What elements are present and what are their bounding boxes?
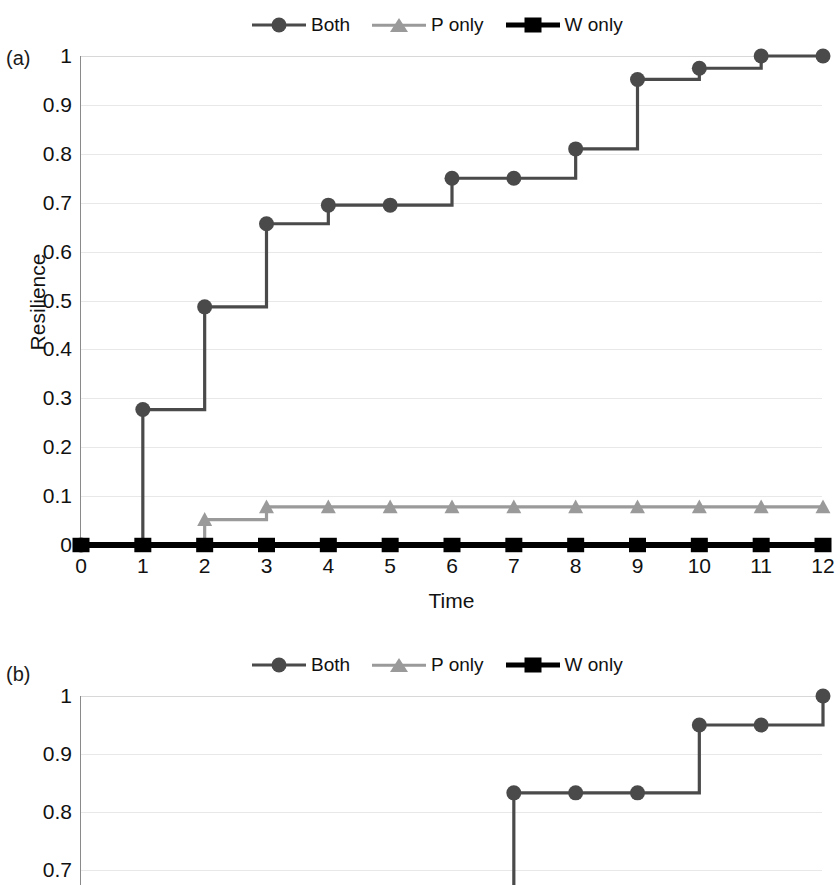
data-point-marker — [445, 171, 460, 186]
data-point-marker — [134, 538, 151, 552]
data-point-marker — [754, 718, 769, 733]
y-axis-tick-label: 0.8 — [43, 800, 72, 824]
triangle-marker-icon — [372, 656, 426, 674]
data-point-marker — [630, 72, 645, 87]
x-axis-tick-label: 7 — [508, 554, 520, 578]
x-axis-tick-label: 0 — [75, 554, 87, 578]
x-axis-tick-label: 5 — [384, 554, 396, 578]
y-axis-tick-label: 0 — [60, 533, 72, 557]
circle-marker-icon — [252, 16, 306, 34]
data-point-marker — [753, 538, 770, 552]
y-axis-tick-label: 0.9 — [43, 742, 72, 766]
legend-label-both: Both — [311, 654, 350, 676]
y-axis-tick-label: 0.9 — [43, 93, 72, 117]
x-axis-tick-label: 10 — [688, 554, 711, 578]
figure: (a) Both P only — [0, 0, 840, 885]
data-point-marker — [691, 538, 708, 552]
y-axis-tick-label: 0.7 — [43, 858, 72, 882]
panel-b-series-layer — [81, 696, 823, 885]
data-point-marker — [630, 785, 645, 800]
y-axis-tick-label: 1 — [60, 44, 72, 68]
legend-label-p-only: P only — [431, 14, 483, 36]
series-both — [74, 49, 831, 553]
data-point-marker — [505, 538, 522, 552]
square-marker-icon — [506, 656, 560, 674]
x-axis-tick-label: 3 — [261, 554, 273, 578]
triangle-marker-icon — [372, 16, 426, 34]
panel-b: (b) Both P only — [0, 640, 840, 885]
panel-a: (a) Both P only — [0, 0, 840, 640]
panel-a-series-layer — [81, 56, 823, 545]
panel-a-x-axis-title: Time — [429, 589, 475, 613]
legend-label-p-only: P only — [431, 654, 483, 676]
legend-item-w-only: W only — [506, 654, 623, 676]
data-point-marker — [815, 538, 832, 552]
data-point-marker — [567, 538, 584, 552]
legend-item-w-only: W only — [506, 14, 623, 36]
data-point-marker — [197, 299, 212, 314]
legend-item-p-only: P only — [372, 14, 483, 36]
series-both — [506, 689, 830, 885]
data-point-marker — [73, 538, 90, 552]
data-point-marker — [444, 538, 461, 552]
data-point-marker — [196, 538, 213, 552]
x-axis-tick-label: 9 — [632, 554, 644, 578]
panel-b-tag: (b) — [6, 663, 30, 686]
data-point-marker — [754, 49, 769, 64]
data-point-marker — [568, 785, 583, 800]
legend-label-both: Both — [311, 14, 350, 36]
y-axis-tick-label: 0.3 — [43, 386, 72, 410]
data-point-marker — [135, 402, 150, 417]
data-point-marker — [816, 689, 831, 704]
panel-a-tag: (a) — [6, 47, 30, 70]
x-axis-tick-label: 11 — [750, 554, 772, 578]
data-point-marker — [629, 538, 646, 552]
panel-a-legend: Both P only W only — [252, 14, 623, 36]
x-axis-tick-label: 8 — [570, 554, 582, 578]
x-axis-tick-label: 2 — [199, 554, 211, 578]
y-axis-tick-label: 0.7 — [43, 191, 72, 215]
legend-item-p-only: P only — [372, 654, 483, 676]
x-axis-tick-label: 1 — [137, 554, 149, 578]
data-point-marker — [320, 538, 337, 552]
data-point-marker — [506, 785, 521, 800]
x-axis-tick-label: 12 — [811, 554, 834, 578]
y-axis-tick-label: 1 — [60, 684, 72, 708]
x-axis-tick-label: 4 — [322, 554, 334, 578]
data-point-marker — [568, 141, 583, 156]
panel-a-y-axis-title: Resilience — [26, 242, 50, 362]
legend-item-both: Both — [252, 14, 350, 36]
data-point-marker — [321, 198, 336, 213]
x-axis-tick-label: 6 — [446, 554, 458, 578]
data-point-marker — [692, 718, 707, 733]
panel-a-plot-area: 00.10.20.30.40.50.60.70.80.91 0123456789… — [80, 56, 822, 545]
data-point-marker — [383, 198, 398, 213]
panel-b-legend: Both P only W only — [252, 654, 623, 676]
data-point-marker — [382, 538, 399, 552]
data-point-marker — [506, 171, 521, 186]
legend-item-both: Both — [252, 654, 350, 676]
panel-b-plot-area: 0.70.80.91 — [80, 696, 822, 885]
y-axis-tick-label: 0.1 — [43, 484, 72, 508]
data-point-marker — [259, 216, 274, 231]
series-w-only — [73, 538, 832, 552]
square-marker-icon — [506, 16, 560, 34]
data-point-marker — [258, 538, 275, 552]
y-axis-tick-label: 0.8 — [43, 142, 72, 166]
y-axis-tick-label: 0.2 — [43, 435, 72, 459]
data-point-marker — [692, 61, 707, 76]
legend-label-w-only: W only — [565, 14, 623, 36]
data-point-marker — [816, 49, 831, 64]
legend-label-w-only: W only — [565, 654, 623, 676]
circle-marker-icon — [252, 656, 306, 674]
